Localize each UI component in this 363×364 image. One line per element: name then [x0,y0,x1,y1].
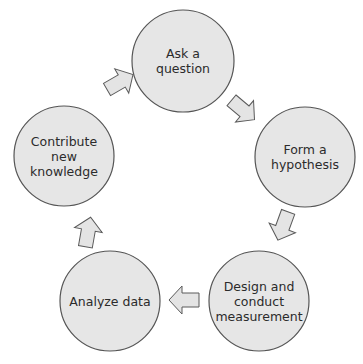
arrow-right-down-icon [223,90,264,131]
research-cycle-diagram [0,0,363,364]
node-ask-a-question [132,10,234,112]
arrow-left-icon [169,286,199,314]
arrow-up-icon [72,215,105,249]
node-contribute-new-knowledge [14,106,114,206]
node-analyze-data [60,251,160,351]
arrow-down-left-icon [265,207,302,245]
node-form-a-hypothesis [255,107,355,207]
node-design-and-conduct-measurement [209,251,309,351]
